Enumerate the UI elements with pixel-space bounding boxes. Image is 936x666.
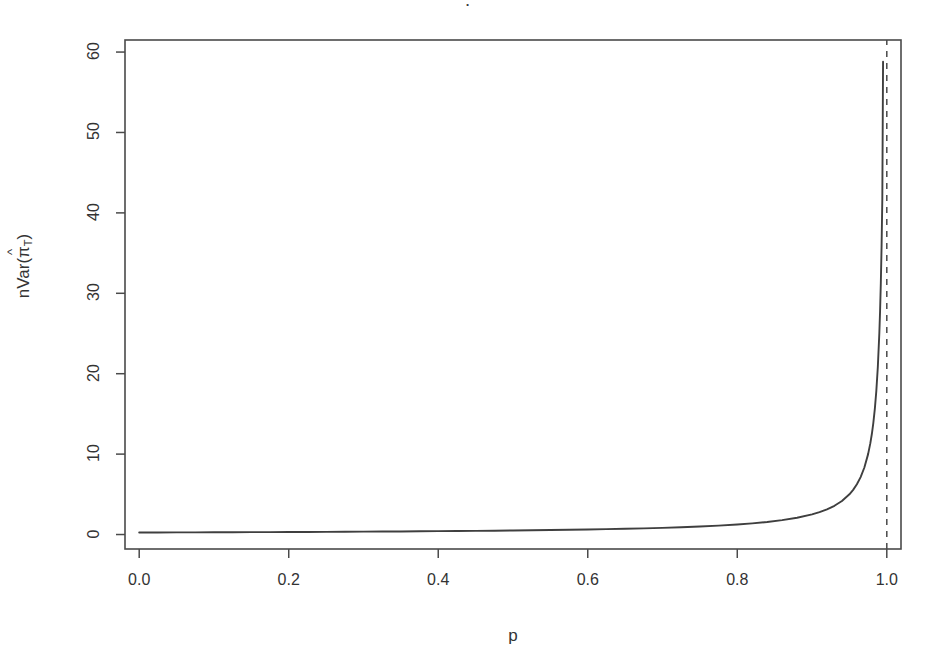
x-tick-label: 1.0 [852, 571, 922, 589]
variance-curve [139, 62, 883, 533]
y-tick-label: 30 [85, 269, 103, 315]
y-tick-label: 40 [85, 189, 103, 235]
chart-figure: · nVar(^πT) p 0102030405060 0.00.20.40.6… [0, 0, 936, 666]
x-tick-label: 0.4 [403, 571, 473, 589]
x-tick-label: 0.2 [254, 571, 324, 589]
y-tick-label: 0 [85, 511, 103, 557]
y-axis-ticks [116, 52, 125, 534]
plot-box-frame [125, 40, 901, 549]
x-tick-label: 0.8 [702, 571, 772, 589]
x-tick-label: 0.0 [104, 571, 174, 589]
y-tick-label: 60 [85, 28, 103, 74]
y-tick-label: 10 [85, 430, 103, 476]
y-tick-label: 50 [85, 108, 103, 154]
x-tick-label: 0.6 [553, 571, 623, 589]
y-tick-label: 20 [85, 350, 103, 396]
plot-canvas [0, 0, 936, 666]
x-axis-ticks [139, 549, 887, 558]
